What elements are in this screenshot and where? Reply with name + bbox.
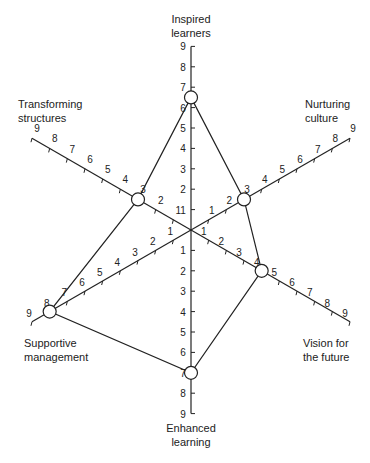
value-marker-ur xyxy=(238,193,251,206)
axis-label-vision-for-the-future: Vision for the future xyxy=(303,336,349,364)
tick-label: 2 xyxy=(158,195,164,206)
axis-label-supportive-management: Supportive management xyxy=(24,336,88,364)
tick-label: 6 xyxy=(87,154,93,165)
axis-top: 123456789 xyxy=(180,41,195,230)
tick-label: 8 xyxy=(333,133,339,144)
tick-label: 8 xyxy=(180,62,186,73)
value-marker-ul xyxy=(131,193,144,206)
tick-label: 1 xyxy=(201,226,207,237)
tick-label: 9 xyxy=(180,409,186,420)
axis-ul: 123456789 xyxy=(31,123,191,230)
tick-label: 4 xyxy=(123,174,129,185)
tick-label: 9 xyxy=(350,123,356,134)
axis-label-inspired-learners: Inspired learners xyxy=(160,12,222,40)
tick-label: 2 xyxy=(180,266,186,277)
tick-label: 1 xyxy=(180,245,186,256)
tick-label: 5 xyxy=(105,164,111,175)
tick-label: 6 xyxy=(180,347,186,358)
tick-label: 6 xyxy=(79,277,85,288)
tick-label: 7 xyxy=(307,287,313,298)
value-marker-lr xyxy=(255,264,268,277)
tick-label: 4 xyxy=(180,143,186,154)
tick-label: 5 xyxy=(180,327,186,338)
value-marker-top xyxy=(185,91,198,104)
tick-label: 4 xyxy=(180,307,186,318)
tick-label: 8 xyxy=(180,388,186,399)
tick-label: 9 xyxy=(26,308,32,319)
tick-label: 2 xyxy=(219,236,225,247)
value-marker-ll xyxy=(43,305,56,318)
tick-label: 2 xyxy=(227,195,233,206)
tick-label: 5 xyxy=(280,164,286,175)
axis-label-enhanced-learning: Enhanced learning xyxy=(158,421,224,449)
tick-label: 9 xyxy=(180,41,186,52)
tick-label: 4 xyxy=(262,174,268,185)
tick-label: 7 xyxy=(70,144,76,155)
tick-label: 8 xyxy=(52,133,58,144)
tick-label: 3 xyxy=(132,247,138,258)
radar-profile-polygon xyxy=(50,97,262,372)
tick-label: 9 xyxy=(342,308,348,319)
tick-label: 1 xyxy=(168,226,174,237)
axis-ur: 123456789 xyxy=(191,123,356,230)
radar-diagram: 1234567891234567891234567891234567891234… xyxy=(0,0,370,463)
tick-label: 4 xyxy=(115,257,121,268)
value-marker-bot xyxy=(185,366,198,379)
axis-label-nurturing-culture: Nurturing culture xyxy=(305,97,350,125)
tick-label: 7 xyxy=(315,144,321,155)
axis-lr: 123456789 xyxy=(191,226,350,326)
tick-label: 8 xyxy=(325,298,331,309)
tick-label: 2 xyxy=(150,236,156,247)
axis-bot: 123456789 xyxy=(180,230,195,420)
tick-label: 5 xyxy=(97,267,103,278)
tick-label: 1 xyxy=(209,205,215,216)
tick-label: 2 xyxy=(180,184,186,195)
tick-label: 3 xyxy=(180,286,186,297)
tick-label: 1 xyxy=(176,205,182,216)
tick-label: 7 xyxy=(180,82,186,93)
axis-label-transforming-structures: Transforming structures xyxy=(18,97,82,125)
tick-label: 3 xyxy=(180,164,186,175)
tick-label: 6 xyxy=(289,277,295,288)
tick-label: 3 xyxy=(236,247,242,258)
tick-label: 5 xyxy=(180,123,186,134)
tick-label: 5 xyxy=(272,267,278,278)
tick-label: 6 xyxy=(297,154,303,165)
